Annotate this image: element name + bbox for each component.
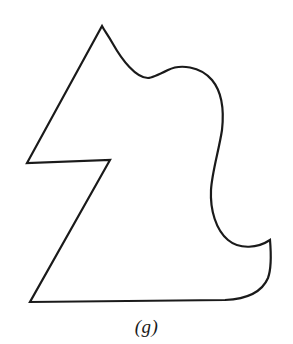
figure-caption: (g) [0, 317, 293, 336]
canvas-background [0, 0, 293, 344]
figure-panel: (g) [0, 0, 293, 344]
shape-canvas [0, 0, 293, 344]
